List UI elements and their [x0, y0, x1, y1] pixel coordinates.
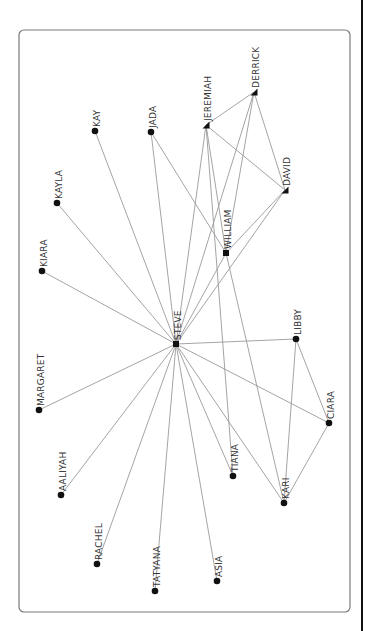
- edge-steve-kiara: [42, 271, 176, 344]
- node-tiana: TIANA: [230, 443, 240, 479]
- edge-derrick-jeremiah: [206, 92, 254, 125]
- node-kiara: KIARA: [39, 239, 49, 275]
- circle-marker-icon: [39, 268, 46, 275]
- node-label: KARI: [281, 477, 291, 499]
- node-label: RACHEL: [94, 523, 104, 560]
- edge-jada-william: [151, 132, 226, 253]
- node-rachel: RACHEL: [94, 523, 104, 567]
- node-william: WILLIAM: [223, 209, 233, 256]
- circle-marker-icon: [281, 500, 288, 507]
- node-kari: KARI: [281, 477, 291, 506]
- circle-marker-icon: [94, 561, 101, 568]
- node-label: DERRICK: [251, 46, 261, 88]
- edge-steve-rachel: [97, 344, 176, 564]
- node-label: KIARA: [39, 239, 49, 267]
- edge-steve-libby: [176, 339, 296, 344]
- edge-william-david: [226, 190, 285, 253]
- edge-derrick-david: [254, 92, 285, 190]
- node-label: LIBBY: [293, 309, 303, 335]
- square-marker-icon: [223, 250, 229, 256]
- square-marker-icon: [173, 341, 179, 347]
- circle-marker-icon: [214, 578, 221, 585]
- edge-libby-ciara: [296, 339, 329, 423]
- edge-steve-william: [176, 253, 226, 344]
- node-label: MARGARET: [36, 353, 46, 406]
- circle-marker-icon: [36, 407, 43, 414]
- node-kay: KAY: [92, 109, 102, 134]
- node-derrick: DERRICK: [251, 46, 262, 96]
- edge-steve-kari: [176, 344, 284, 503]
- node-jada: JADA: [148, 105, 158, 135]
- circle-marker-icon: [326, 420, 333, 427]
- circle-marker-icon: [148, 129, 155, 136]
- circle-marker-icon: [293, 336, 300, 343]
- node-label: KAY: [92, 109, 102, 127]
- node-label: DAVID: [282, 157, 292, 186]
- node-label: JEREMIAH: [203, 76, 213, 122]
- circle-marker-icon: [58, 492, 65, 499]
- node-jeremiah: JEREMIAH: [203, 76, 214, 129]
- circle-marker-icon: [54, 200, 61, 207]
- node-label: CIARA: [326, 390, 336, 419]
- node-aaliyah: AALIYAH: [58, 452, 68, 499]
- node-layer: STEVEDERRICKJEREMIAHDAVIDWILLIAMJADAKAYK…: [36, 46, 336, 595]
- triangle-marker-icon: [251, 89, 258, 96]
- node-kayla: KAYLA: [54, 169, 64, 206]
- node-asia: ASIA: [214, 555, 224, 584]
- node-libby: LIBBY: [293, 309, 303, 343]
- node-label: STEVE: [173, 310, 183, 340]
- edge-steve-derrick: [176, 92, 254, 344]
- node-steve: STEVE: [173, 310, 183, 347]
- node-tatyana: TATYANA: [152, 545, 162, 594]
- node-label: JADA: [148, 105, 158, 129]
- edge-steve-aaliyah: [61, 344, 176, 495]
- node-margaret: MARGARET: [36, 353, 46, 413]
- node-label: TIANA: [230, 443, 240, 473]
- triangle-marker-icon: [203, 122, 210, 129]
- circle-marker-icon: [230, 473, 237, 480]
- node-label: WILLIAM: [223, 209, 233, 249]
- node-label: AALIYAH: [58, 452, 68, 491]
- network-graph: STEVEDERRICKJEREMIAHDAVIDWILLIAMJADAKAYK…: [0, 0, 369, 631]
- circle-marker-icon: [92, 128, 99, 135]
- edge-steve-kayla: [57, 203, 176, 344]
- edge-jeremiah-david: [206, 125, 285, 190]
- edge-steve-asia: [176, 344, 217, 581]
- node-ciara: CIARA: [326, 390, 336, 426]
- node-label: ASIA: [214, 555, 224, 577]
- node-label: KAYLA: [54, 169, 64, 199]
- edge-steve-ciara: [176, 344, 329, 423]
- circle-marker-icon: [152, 588, 159, 595]
- node-label: TATYANA: [152, 545, 162, 588]
